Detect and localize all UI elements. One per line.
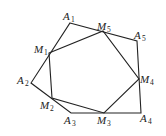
svg-text:A: A — [63, 114, 71, 126]
label-A5: A 5 — [133, 29, 146, 43]
svg-text:A: A — [16, 74, 24, 86]
label-A1: A 1 — [62, 10, 75, 24]
svg-text:5: 5 — [107, 25, 111, 34]
svg-text:4: 4 — [148, 117, 152, 126]
svg-text:2: 2 — [25, 79, 29, 88]
svg-text:4: 4 — [150, 78, 154, 87]
svg-text:A: A — [139, 112, 147, 124]
label-M4: M 4 — [139, 73, 154, 87]
svg-text:A: A — [133, 29, 141, 41]
label-M3: M 3 — [96, 114, 111, 128]
svg-text:1: 1 — [71, 15, 75, 24]
label-A2: A 2 — [16, 74, 29, 88]
svg-text:M: M — [139, 73, 150, 85]
svg-text:5: 5 — [142, 34, 146, 43]
svg-text:M: M — [96, 20, 107, 32]
svg-text:2: 2 — [50, 104, 54, 113]
svg-text:M: M — [96, 114, 107, 126]
label-M5: M 5 — [96, 20, 111, 34]
geometry-diagram: A 1 M 5 A 5 M 1 A 2 M 4 M 2 A 3 M 3 A 4 — [0, 0, 166, 136]
inner-pentagon — [49, 31, 139, 113]
label-A3: A 3 — [63, 114, 76, 128]
svg-text:A: A — [62, 10, 70, 22]
svg-text:M: M — [39, 99, 50, 111]
label-M1: M 1 — [33, 43, 48, 57]
label-A4: A 4 — [139, 112, 152, 126]
label-M2: M 2 — [39, 99, 54, 113]
svg-text:M: M — [33, 43, 44, 55]
svg-text:1: 1 — [44, 48, 48, 57]
svg-text:3: 3 — [107, 119, 111, 128]
svg-text:3: 3 — [72, 119, 76, 128]
